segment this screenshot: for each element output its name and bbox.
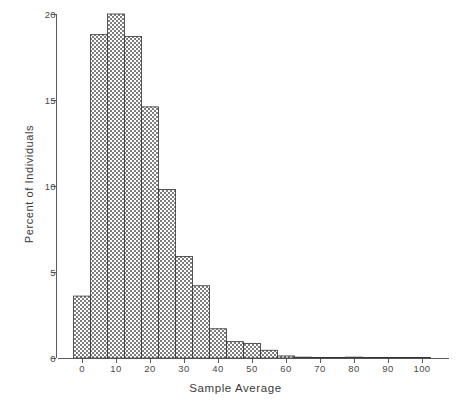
histogram-bars (74, 14, 431, 358)
histogram-bar (74, 296, 91, 358)
histogram-bar (125, 36, 142, 358)
histogram-bar (227, 342, 244, 358)
histogram-bar (210, 329, 227, 358)
histogram-bar (176, 257, 193, 358)
histogram-bar (193, 286, 210, 358)
plot-canvas (0, 0, 471, 405)
x-axis-title: Sample Average (0, 382, 471, 394)
histogram-figure: 05101520 0102030405060708090100 Percent … (0, 0, 471, 405)
y-axis-tick-label: 20 (28, 9, 56, 20)
y-axis-tick-label: 5 (28, 267, 56, 278)
histogram-bar (91, 35, 108, 358)
histogram-bar (108, 14, 125, 358)
histogram-bar (261, 350, 278, 358)
x-axis-tick-labels: 0102030405060708090100 (0, 363, 471, 377)
histogram-bar (159, 189, 176, 358)
y-axis-tick-label: 0 (28, 353, 56, 364)
x-axis-tick-label: 100 (402, 363, 442, 374)
y-axis-title: Percent of Individuals (23, 104, 35, 264)
histogram-bar (142, 107, 159, 358)
histogram-bar (244, 343, 261, 358)
